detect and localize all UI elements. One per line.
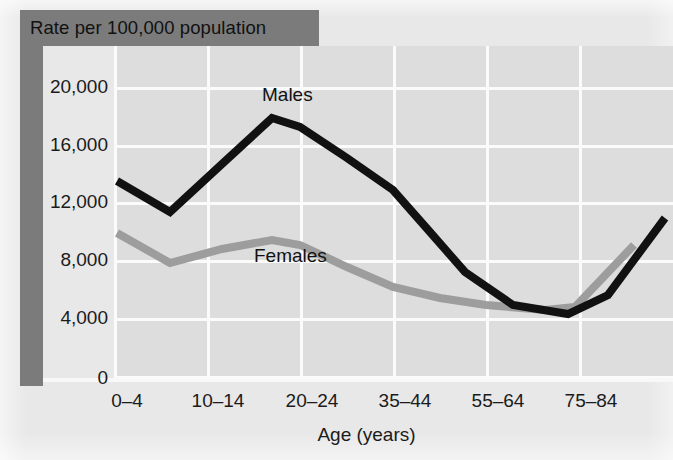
y-tick-0: 0 [97, 367, 108, 389]
series-label-males: Males [262, 84, 313, 106]
left-accent-bar [20, 10, 43, 386]
gridline-vertical-1 [114, 46, 117, 378]
y-tick-16000: 16,000 [50, 134, 108, 156]
x-tick-0-4: 0–4 [111, 390, 143, 412]
y-tick-4000: 4,000 [60, 307, 108, 329]
x-axis-baseline [43, 378, 673, 382]
series-label-females: Females [254, 245, 327, 267]
x-axis-title: Age (years) [0, 424, 673, 446]
y-tick-20000: 20,000 [50, 76, 108, 98]
x-tick-55-64: 55–64 [472, 390, 525, 412]
plot-area [114, 46, 673, 378]
gridline-vertical-4 [393, 46, 396, 378]
x-axis-tick-labels: 0–4 10–14 20–24 35–44 55–64 75–84 [0, 390, 673, 418]
gridline-vertical-6 [579, 46, 582, 378]
x-tick-35-44: 35–44 [379, 390, 432, 412]
chart-figure: Rate per 100,000 population 20,000 16,00… [0, 0, 673, 460]
gridline-vertical-5 [486, 46, 489, 378]
y-tick-12000: 12,000 [50, 191, 108, 213]
x-axis-title-text: Age (years) [317, 424, 415, 445]
x-tick-10-14: 10–14 [192, 390, 245, 412]
x-tick-75-84: 75–84 [565, 390, 618, 412]
x-tick-20-24: 20–24 [286, 390, 339, 412]
y-tick-8000: 8,000 [60, 249, 108, 271]
gridline-vertical-2 [207, 46, 210, 378]
